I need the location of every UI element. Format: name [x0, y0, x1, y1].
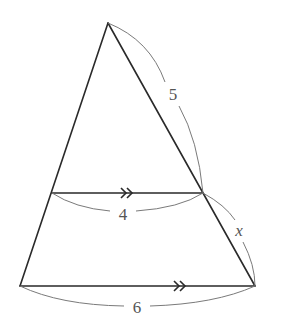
dimension-arc-4-right: [136, 193, 203, 211]
label-x: x: [234, 221, 243, 240]
dimension-arc-x-upper: [203, 193, 235, 220]
dimension-arc-4-left: [52, 193, 110, 211]
label-5: 5: [169, 85, 178, 104]
label-4: 4: [119, 205, 128, 224]
dimension-arc-6-right: [150, 286, 255, 306]
dimension-arc-x-lower: [243, 242, 255, 286]
triangle-diagram: 5 4 x 6: [0, 0, 281, 329]
left-side: [20, 23, 108, 286]
dimension-arc-5-lower: [179, 106, 203, 193]
dimension-arc-6-left: [20, 286, 124, 306]
right-side: [108, 23, 255, 286]
label-6: 6: [133, 298, 142, 317]
